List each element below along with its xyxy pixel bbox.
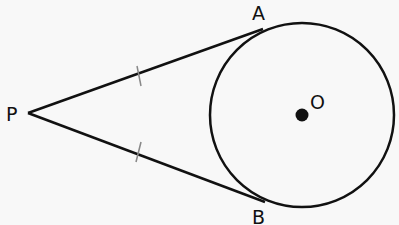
- label-o: O: [310, 91, 325, 113]
- tick-mark-pb: [136, 142, 141, 162]
- tangent-segment-pa: [28, 29, 263, 113]
- center-point-o: [296, 109, 309, 122]
- label-a: A: [252, 2, 265, 24]
- label-p: P: [6, 103, 17, 125]
- tick-mark-pa: [137, 66, 141, 86]
- tangent-segment-pb: [28, 113, 265, 202]
- tangent-diagram: P A B O: [0, 0, 399, 225]
- label-b: B: [252, 206, 265, 225]
